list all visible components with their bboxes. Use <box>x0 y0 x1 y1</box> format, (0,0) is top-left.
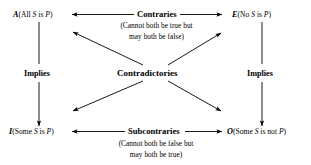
proposition-o-close: ) <box>284 127 287 136</box>
proposition-a-close: ) <box>50 10 53 19</box>
proposition-e-open: (No <box>237 10 251 19</box>
implies-right-label: Implies <box>245 67 275 80</box>
implies-left-label: Implies <box>22 67 52 80</box>
subcontraries-gloss-line-2: may both be true) <box>92 150 220 161</box>
proposition-label-o: O(Some S is not P) <box>227 127 286 137</box>
proposition-label-i: I(Some S is P) <box>9 127 54 137</box>
proposition-i-mid: is <box>38 127 47 136</box>
subcontraries-gloss-line-1: (Cannot both be false but <box>92 139 220 150</box>
proposition-e-mid: is <box>255 10 264 19</box>
contraries-label: Contraries <box>134 10 180 20</box>
contradictory-arrow-to-i <box>73 81 143 111</box>
proposition-i-open: (Some <box>12 127 34 136</box>
subcontraries-label: Subcontraries <box>125 127 183 137</box>
subcontraries-gloss: (Cannot both be false but may both be tr… <box>92 139 220 160</box>
proposition-a-mid: is <box>36 10 45 19</box>
proposition-a-open: (All <box>18 10 32 19</box>
contraries-gloss-line-2: may both be false) <box>95 32 218 43</box>
proposition-e-close: ) <box>269 10 272 19</box>
proposition-o-mid: is not <box>258 127 278 136</box>
proposition-i-close: ) <box>51 127 54 136</box>
proposition-label-e: E(No S is P) <box>232 10 271 20</box>
contraries-gloss-line-1: (Cannot both be true but <box>95 21 218 32</box>
contradictory-arrow-to-o <box>168 81 221 111</box>
contradictories-label: Contradictories <box>113 67 182 79</box>
square-of-opposition-diagram: A(All S is P) E(No S is P) I(Some S is P… <box>0 0 311 165</box>
contraries-gloss: (Cannot both be true but may both be fal… <box>95 21 218 42</box>
proposition-label-a: A(All S is P) <box>13 10 52 20</box>
proposition-o-open: (Some <box>233 127 255 136</box>
